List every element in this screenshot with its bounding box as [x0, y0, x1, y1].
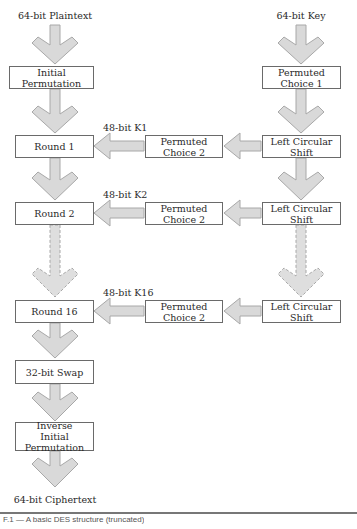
permuted-choice-2-box-2: Permuted Choice 2 — [145, 202, 223, 225]
arrow-pc2-to-round1 — [94, 133, 144, 159]
round-1-box: Round 1 — [15, 135, 94, 158]
left-circular-shift-label: Left Circular Shift — [263, 301, 340, 323]
arrow-plaintext-to-ip — [32, 25, 78, 64]
permuted-choice-1-label: Permuted Choice 1 — [263, 67, 340, 89]
round-16-label: Round 16 — [31, 306, 77, 317]
left-circular-shift-box-1: Left Circular Shift — [262, 135, 341, 158]
arrow-lcs1-to-lcs2 — [278, 158, 324, 200]
permuted-choice-1-box: Permuted Choice 1 — [262, 66, 341, 89]
permuted-choice-2-label: Permuted Choice 2 — [146, 136, 222, 158]
figure-caption: F.1 — A basic DES structure (truncated) — [3, 515, 144, 529]
arrow-iip-to-ciphertext — [32, 451, 78, 487]
inverse-initial-permutation-label: Inverse Initial Permutation — [25, 420, 85, 453]
swap-label: 32-bit Swap — [26, 367, 84, 378]
caption-divider — [0, 512, 357, 514]
ciphertext-label: 64-bit Ciphertext — [14, 494, 97, 505]
arrow-round1-to-round2 — [32, 158, 78, 200]
round-2-box: Round 2 — [15, 202, 94, 225]
round-1-label: Round 1 — [34, 141, 74, 152]
round-16-box: Round 16 — [15, 300, 94, 323]
arrow-pc2-to-round2 — [94, 200, 144, 226]
permuted-choice-2-box-1: Permuted Choice 2 — [145, 135, 223, 158]
permuted-choice-2-label: Permuted Choice 2 — [146, 203, 222, 225]
arrow-lcs1-to-pc2 — [224, 133, 261, 159]
left-circular-shift-box-16: Left Circular Shift — [262, 300, 341, 323]
left-circular-shift-box-2: Left Circular Shift — [262, 202, 341, 225]
arrow-swap-to-iip — [32, 384, 78, 421]
subkey-k1-label: 48-bit K1 — [103, 122, 147, 133]
arrow-lcs2-to-pc2 — [224, 200, 261, 226]
arrow-pc1-to-lcs1 — [278, 89, 324, 133]
initial-permutation-box: Initial Permutation — [9, 66, 94, 89]
arrow-pc2-to-round16 — [94, 298, 144, 324]
permuted-choice-2-box-16: Permuted Choice 2 — [145, 300, 223, 323]
arrow-lcs16-to-pc2 — [224, 298, 261, 324]
initial-permutation-label: Initial Permutation — [10, 67, 93, 89]
subkey-k16-label: 48-bit K16 — [103, 287, 153, 298]
arrow-lcs2-to-lcs16-dashed — [278, 225, 324, 297]
left-circular-shift-label: Left Circular Shift — [263, 203, 340, 225]
key-label: 64-bit Key — [276, 10, 325, 21]
swap-box: 32-bit Swap — [15, 360, 94, 384]
arrow-ip-to-round1 — [32, 89, 78, 133]
arrow-round2-to-round16-dashed — [32, 225, 78, 297]
left-circular-shift-label: Left Circular Shift — [263, 136, 340, 158]
plaintext-label: 64-bit Plaintext — [18, 10, 92, 21]
arrow-round16-to-swap — [32, 323, 78, 358]
subkey-k2-label: 48-bit K2 — [103, 189, 147, 200]
round-2-label: Round 2 — [34, 208, 74, 219]
permuted-choice-2-label: Permuted Choice 2 — [146, 301, 222, 323]
arrow-key-to-pc1 — [278, 25, 324, 64]
inverse-initial-permutation-box: Inverse Initial Permutation — [15, 422, 94, 451]
